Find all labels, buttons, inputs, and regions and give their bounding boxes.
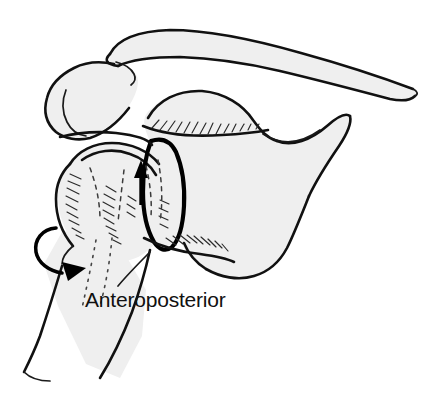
humerus-shaft-distal-edge [24, 372, 50, 381]
shoulder-anatomy-drawing [0, 0, 433, 404]
acromion-fill [46, 63, 138, 139]
humerus-shaft-left-outline [24, 266, 62, 372]
anatomical-figure: Anteroposterior [0, 0, 433, 404]
bone-fills [44, 30, 416, 378]
clavicle-fill [109, 30, 416, 99]
view-caption: Anteroposterior [85, 288, 226, 312]
